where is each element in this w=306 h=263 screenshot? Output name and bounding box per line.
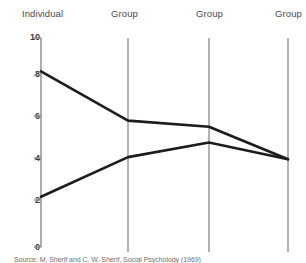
y-axis-group — [34, 38, 41, 247]
source-caption: Source: M. Sherif and C. W. Sherif, Soci… — [14, 256, 201, 263]
series-group — [41, 71, 288, 196]
divider-group — [128, 38, 288, 252]
series-line-lower — [41, 143, 288, 197]
series-line-upper — [41, 71, 288, 159]
